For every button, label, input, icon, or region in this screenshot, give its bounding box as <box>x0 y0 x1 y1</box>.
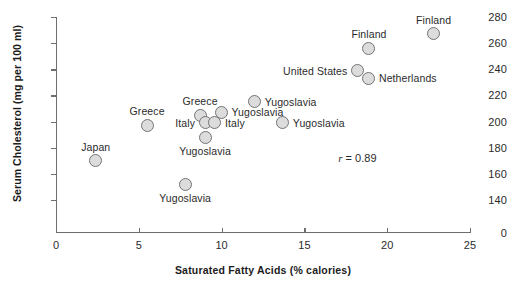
y-tick-label: 280 <box>460 11 507 23</box>
data-point-marker <box>215 106 228 119</box>
x-tick-label: 5 <box>136 239 142 251</box>
y-tick <box>51 174 56 175</box>
x-tick <box>304 228 305 233</box>
y-tick-label: 260 <box>460 37 507 49</box>
data-point-label: Finland <box>416 14 451 26</box>
y-tick <box>51 43 56 44</box>
y-tick <box>51 122 56 123</box>
y-tick-label: 220 <box>460 89 507 101</box>
data-point-label: Italy <box>225 117 245 129</box>
x-axis-line <box>56 232 470 233</box>
y-tick <box>51 148 56 149</box>
y-tick-label: 200 <box>460 116 507 128</box>
data-point-marker <box>89 154 102 167</box>
data-point-label: Italy <box>175 117 195 129</box>
data-point-label: Yugoslavia <box>159 192 211 204</box>
x-tick <box>222 228 223 233</box>
x-tick-label: 25 <box>464 239 476 251</box>
y-tick <box>51 200 56 201</box>
y-tick-label: 240 <box>460 63 507 75</box>
y-tick <box>51 17 56 18</box>
x-tick-label: 20 <box>381 239 393 251</box>
data-point-label: Yugoslavia <box>179 145 231 157</box>
x-tick-label: 0 <box>53 239 59 251</box>
y-tick-label: 180 <box>460 142 507 154</box>
y-tick <box>51 95 56 96</box>
x-tick <box>139 228 140 233</box>
data-point-label: Yugoslavia <box>265 96 317 108</box>
data-point-label: Yugoslavia <box>293 117 345 129</box>
y-axis-line <box>56 17 57 233</box>
x-tick-label: 10 <box>215 239 227 251</box>
data-point-label: United States <box>283 65 347 77</box>
data-point-marker <box>179 178 192 191</box>
y-tick-label: 140 <box>460 194 507 206</box>
correlation-annotation: r = 0.89 <box>338 152 376 164</box>
data-point-marker <box>362 72 375 85</box>
plot-area: JapanGreeceYugoslaviaGreeceYugoslaviaIta… <box>56 12 470 233</box>
y-axis-title: Serum Cholesterol (mg per 100 ml) <box>11 3 25 224</box>
x-axis-title: Saturated Fatty Acids (% calories) <box>56 264 470 276</box>
y-origin-label: 0 <box>460 227 507 239</box>
data-point-marker <box>427 27 440 40</box>
data-point-label: Greece <box>130 105 165 117</box>
data-point-label: Yugoslavia <box>232 106 284 118</box>
correlation-value: = 0.89 <box>343 152 377 164</box>
scatter-plot-figure: Serum Cholesterol (mg per 100 ml) JapanG… <box>0 0 507 285</box>
data-point-marker <box>141 119 154 132</box>
x-tick-label: 15 <box>298 239 310 251</box>
data-point-marker <box>362 42 375 55</box>
x-tick <box>387 228 388 233</box>
data-point-label: Greece <box>183 95 218 107</box>
data-point-marker <box>276 116 289 129</box>
data-point-label: Netherlands <box>379 72 437 84</box>
y-tick-label: 160 <box>460 168 507 180</box>
data-point-label: Finland <box>351 28 386 40</box>
data-point-marker <box>199 131 212 144</box>
data-point-label: Japan <box>81 141 110 153</box>
y-tick <box>51 69 56 70</box>
